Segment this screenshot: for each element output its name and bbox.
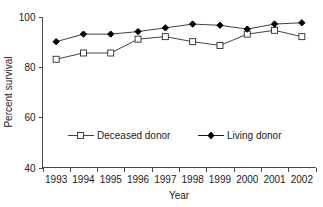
x-axis-title: Year: [169, 190, 190, 201]
legend-entry-living-donor: Living donor: [198, 130, 282, 141]
x-tick-label: 1999: [209, 174, 232, 185]
y-axis-ticks: [39, 18, 43, 169]
series-deceased-donor: [53, 27, 305, 62]
y-tick-label: 100: [19, 12, 36, 23]
data-point-open-square: [217, 42, 223, 48]
data-point-open-square: [80, 50, 86, 56]
x-tick-label: 1993: [45, 174, 68, 185]
x-tick-label: 1998: [182, 174, 205, 185]
line-chart: 406080100 199319941995199619971998199920…: [0, 0, 323, 207]
data-point-filled-diamond: [135, 28, 141, 34]
series-living-donor: [53, 20, 305, 45]
data-point-open-square: [108, 50, 114, 56]
data-point-open-square: [299, 34, 305, 40]
data-point-open-square: [135, 36, 141, 42]
y-axis-title: Percent survival: [3, 56, 14, 127]
x-tick-label: 2000: [236, 174, 259, 185]
y-axis-tick-labels: 406080100: [19, 12, 36, 174]
legend-marker-filled-diamond-icon: [208, 132, 214, 139]
data-point-open-square: [162, 34, 168, 40]
chart-figure: 406080100 199319941995199619971998199920…: [0, 0, 323, 207]
data-point-filled-diamond: [189, 21, 195, 27]
x-tick-label: 2001: [263, 174, 286, 185]
data-series-layer: [53, 20, 305, 63]
legend-entry-deceased-donor: Deceased donor: [68, 130, 171, 141]
x-axis-ticks: [44, 168, 317, 172]
y-tick-label: 40: [24, 163, 36, 174]
x-tick-label: 1995: [100, 174, 123, 185]
data-point-filled-diamond: [271, 21, 277, 27]
legend-marker-open-square-icon: [78, 133, 84, 139]
data-point-filled-diamond: [80, 31, 86, 37]
legend-label-living-donor: Living donor: [227, 130, 282, 141]
data-point-filled-diamond: [53, 38, 59, 44]
data-point-open-square: [272, 27, 278, 33]
x-tick-label: 2002: [291, 174, 314, 185]
data-point-open-square: [53, 56, 59, 62]
legend-label-deceased-donor: Deceased donor: [97, 130, 171, 141]
data-point-filled-diamond: [108, 31, 114, 37]
data-point-filled-diamond: [217, 22, 223, 28]
x-tick-label: 1994: [72, 174, 95, 185]
series-line: [56, 30, 302, 59]
y-tick-label: 80: [24, 62, 36, 73]
data-point-filled-diamond: [299, 20, 305, 26]
chart-legend: Deceased donor Living donor: [68, 130, 282, 141]
data-point-filled-diamond: [162, 25, 168, 31]
x-tick-label: 1997: [154, 174, 177, 185]
y-tick-label: 60: [24, 112, 36, 123]
x-axis-tick-labels: 1993199419951996199719981999200020012002: [45, 174, 313, 185]
x-tick-label: 1996: [127, 174, 150, 185]
data-point-open-square: [190, 39, 196, 45]
